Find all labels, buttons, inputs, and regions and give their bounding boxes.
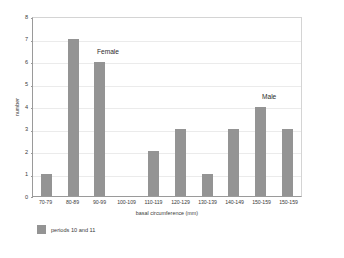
annotation-female: Female [97, 48, 119, 55]
bar-slot-100-109 [113, 18, 140, 196]
bar-150-159-b [282, 129, 293, 196]
x-tick-label-1: 80-89 [59, 199, 86, 205]
bar-120-129 [175, 129, 186, 196]
x-tick-label-5: 120-129 [167, 199, 194, 205]
x-tick-label-9: 150-159 [275, 199, 302, 205]
legend-label-periods-10-and-11: periods 10 and 11 [51, 227, 95, 233]
bar-slot-90-99 [87, 18, 114, 196]
legend-swatch-periods-10-and-11 [37, 225, 46, 234]
bar-slot-150-159-b [274, 18, 301, 196]
plot-area [32, 17, 302, 197]
y-tick-label-7: 7 [14, 37, 28, 43]
y-tick-label-0: 0 [14, 195, 28, 201]
x-tick-label-3: 100-109 [113, 199, 140, 205]
y-tick-label-8: 8 [14, 15, 28, 21]
x-tick-label-0: 70-79 [32, 199, 59, 205]
bar-slot-120-129 [167, 18, 194, 196]
annotation-male: Male [262, 93, 276, 100]
chart-legend: periods 10 and 11 [37, 225, 95, 234]
bar-chart-figure: number 8 7 6 5 4 3 2 1 0 [0, 0, 344, 258]
y-tick-label-5: 5 [14, 82, 28, 88]
x-axis-tick-labels: 70-79 80-89 90-99 100-109 110-119 120-12… [32, 199, 302, 205]
bar-140-149 [228, 129, 239, 196]
x-axis-label: basal circumference (mm) [32, 210, 302, 216]
x-tick-label-7: 140-149 [221, 199, 248, 205]
y-tick-label-1: 1 [14, 172, 28, 178]
bar-110-119 [148, 151, 159, 196]
x-tick-label-6: 130-139 [194, 199, 221, 205]
bar-series-periods-10-and-11 [33, 18, 301, 196]
x-tick-label-4: 110-119 [140, 199, 167, 205]
x-tick-label-2: 90-99 [86, 199, 113, 205]
bar-150-159 [255, 107, 266, 197]
y-tick-label-3: 3 [14, 127, 28, 133]
bar-slot-70-79 [33, 18, 60, 196]
bar-slot-110-119 [140, 18, 167, 196]
y-tick-label-4: 4 [14, 105, 28, 111]
y-tickmark-0 [31, 197, 34, 198]
bar-90-99 [94, 62, 105, 196]
bar-80-89 [68, 39, 79, 196]
bar-slot-80-89 [60, 18, 87, 196]
y-tick-label-2: 2 [14, 150, 28, 156]
plot-wrapper: number 8 7 6 5 4 3 2 1 0 [0, 0, 344, 258]
bar-slot-150-159 [247, 18, 274, 196]
bar-130-139 [202, 174, 213, 196]
bar-70-79 [41, 174, 52, 196]
bar-slot-140-149 [221, 18, 248, 196]
bar-slot-130-139 [194, 18, 221, 196]
y-tick-label-6: 6 [14, 60, 28, 66]
x-tick-label-8: 150-159 [248, 199, 275, 205]
